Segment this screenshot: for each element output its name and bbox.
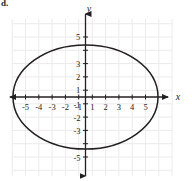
coordinate-plane: x y -5 -4 -3 -2 -1 1 2 3 4 5 5 3 2 1 -1 …	[0, 0, 192, 181]
xtick-label-neg5: -5	[22, 102, 29, 112]
graph-figure: d.	[0, 0, 192, 181]
ytick-label-neg2: -2	[73, 113, 80, 123]
xtick-label-2: 2	[103, 102, 107, 112]
ytick-label-neg3: -3	[73, 126, 80, 136]
xtick-label-neg3: -3	[49, 102, 56, 112]
ytick-label-2: 2	[76, 72, 80, 82]
xtick-label-5: 5	[143, 102, 147, 112]
xtick-label-4: 4	[130, 102, 135, 112]
ytick-label-1: 1	[76, 85, 80, 95]
x-axis-label: x	[175, 91, 181, 102]
ytick-label-5: 5	[76, 32, 80, 42]
ytick-label-3: 3	[76, 59, 80, 69]
ytick-label-neg5: -5	[73, 153, 80, 163]
xtick-label-3: 3	[117, 102, 121, 112]
y-axis-label: y	[86, 3, 92, 14]
ytick-label-neg1: -1	[73, 100, 80, 110]
xtick-label-neg2: -2	[62, 102, 69, 112]
xtick-label-neg4: -4	[35, 102, 43, 112]
xtick-label-1: 1	[90, 102, 94, 112]
